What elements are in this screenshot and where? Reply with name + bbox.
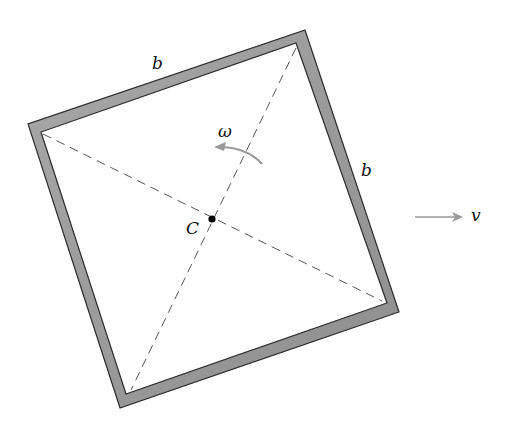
center-point — [208, 215, 215, 222]
label-side-top: b — [152, 53, 163, 73]
label-center: C — [186, 218, 199, 238]
omega-arc-arrow — [222, 147, 262, 164]
diagram-canvas: b b C ω v — [0, 0, 513, 433]
label-velocity: v — [471, 205, 481, 225]
label-side-right: b — [361, 160, 372, 180]
omega-arrowhead — [214, 142, 226, 151]
label-omega: ω — [218, 121, 232, 141]
